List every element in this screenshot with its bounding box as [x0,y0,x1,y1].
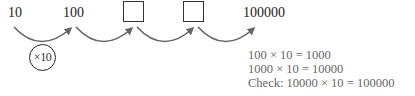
working-line-2: 1000 × 10 = 10000 [248,62,343,76]
multiplier-circle: ×10 [29,44,56,71]
working-line-3: Check: 10000 × 10 = 100000 [248,76,394,90]
arrow-4 [198,27,253,42]
arrow-1 [14,27,70,42]
arrow-2 [76,27,131,42]
arrow-3 [137,27,192,42]
working-line-1: 100 × 10 = 1000 [248,48,331,62]
